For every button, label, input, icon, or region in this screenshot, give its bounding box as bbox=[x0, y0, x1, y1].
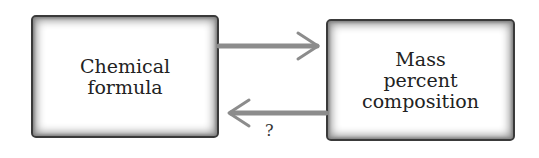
arrow-left-icon bbox=[229, 100, 326, 126]
arrow-right-icon bbox=[219, 33, 318, 59]
edge-label-question: ? bbox=[265, 121, 274, 140]
